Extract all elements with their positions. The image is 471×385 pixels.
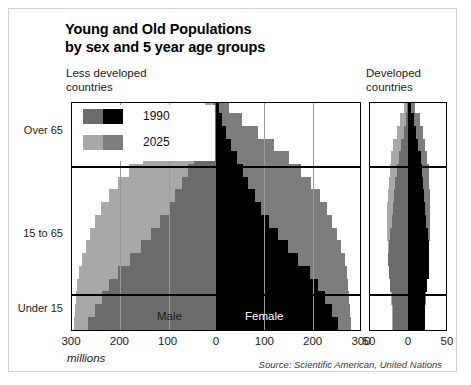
plot-area-developed	[369, 102, 447, 331]
page-title: Young and Old Populationsby sex and 5 ye…	[65, 21, 395, 56]
pyramid-bar	[393, 202, 409, 215]
pyramid-bar	[409, 228, 428, 241]
pyramid-bar	[395, 177, 409, 190]
source-note: Source: Scientific American, United Nati…	[259, 359, 442, 370]
pyramid-bar	[216, 228, 278, 241]
pyramid-bar	[216, 240, 288, 253]
pyramid-bar	[409, 139, 418, 152]
center-axis	[216, 103, 218, 330]
legend-swatch-2025-female	[103, 135, 123, 150]
pyramid-bar	[392, 215, 409, 228]
pyramid-bar	[409, 215, 426, 228]
x-tick-label: 200	[293, 335, 333, 347]
x-tick-label: 100	[244, 335, 284, 347]
band-divider-under15	[72, 294, 216, 296]
legend-label-2025: 2025	[143, 135, 170, 150]
band-divider-over65	[216, 166, 360, 168]
pyramid-bar	[151, 228, 216, 241]
gridline-100m-right	[264, 103, 265, 330]
pyramid-bar	[130, 253, 216, 266]
chart-frame: Young and Old Populationsby sex and 5 ye…	[8, 8, 457, 372]
pyramid-bar	[182, 177, 216, 190]
pyramid-bar	[216, 189, 255, 202]
pyramid-bar	[409, 266, 429, 279]
inbar-label-female: Female	[245, 310, 283, 322]
pyramid-bar	[216, 253, 298, 266]
panel-heading-less-developed: Less developedcountries	[66, 67, 147, 95]
pyramid-bar	[409, 279, 427, 292]
pyramid-bar	[216, 279, 318, 292]
pyramid-bar	[409, 126, 416, 139]
pyramid-bar	[216, 151, 237, 164]
legend-swatch-1990-male	[83, 109, 103, 124]
legend: 1990 2025	[79, 105, 215, 161]
gridline-200m-right	[313, 103, 314, 330]
y-axis-label-under-15: Under 15	[11, 302, 63, 314]
pyramid-bar	[169, 202, 216, 215]
x-tick-label: 200	[99, 335, 139, 347]
pyramid-bar	[175, 189, 216, 202]
plot-area-less-developed-female	[216, 102, 361, 331]
inbar-label-male: Male	[157, 310, 182, 322]
legend-swatch-1990-female	[103, 109, 123, 124]
pyramid-bar	[141, 240, 216, 253]
pyramid-bar	[388, 253, 409, 266]
y-axis-label-15-to-65: 15 to 65	[11, 227, 63, 239]
pyramid-bar	[393, 304, 409, 317]
x-tick-label-developed: 0	[388, 335, 428, 347]
pyramid-bar	[409, 253, 429, 266]
panel-heading-developed: Developedcountries	[366, 67, 421, 95]
legend-swatch-2025-male	[83, 135, 103, 150]
pyramid-bar	[409, 177, 423, 190]
developed-male-half	[370, 103, 409, 330]
pyramid-bar	[118, 266, 216, 279]
pyramid-bar	[95, 304, 216, 317]
band-divider-over65	[72, 166, 216, 168]
pyramid-bar	[109, 279, 216, 292]
pyramid-bar	[216, 177, 248, 190]
pyramid-bar	[409, 151, 421, 164]
x-tick-label: 0	[196, 335, 236, 347]
pyramid-bar	[393, 317, 409, 330]
pyramid-bar	[390, 228, 409, 241]
pyramid-bar	[389, 266, 409, 279]
pyramid-bar	[409, 202, 425, 215]
x-tick-label: 300	[51, 335, 91, 347]
center-axis-developed	[408, 103, 410, 330]
x-tick-label-developed: 50	[427, 335, 467, 347]
x-tick-label-developed: 50	[349, 335, 389, 347]
pyramid-bar	[88, 317, 216, 330]
y-axis-label-over-65: Over 65	[11, 124, 63, 136]
pyramid-bar	[216, 266, 310, 279]
pyramid-bar	[389, 240, 409, 253]
pyramid-bar	[409, 240, 429, 253]
band-divider-under15	[216, 294, 360, 296]
x-axis-units-label: millions	[67, 352, 105, 364]
pyramid-bar	[216, 139, 231, 152]
pyramid-bar	[394, 189, 409, 202]
pyramid-bar	[409, 304, 425, 317]
pyramid-bar	[390, 279, 409, 292]
developed-female-half	[409, 103, 447, 330]
x-tick-label: 100	[148, 335, 188, 347]
legend-label-1990: 1990	[143, 109, 170, 124]
pyramid-bar	[216, 215, 269, 228]
pyramid-bar	[409, 189, 424, 202]
pyramid-bar	[409, 317, 425, 330]
pyramid-bar	[216, 202, 261, 215]
